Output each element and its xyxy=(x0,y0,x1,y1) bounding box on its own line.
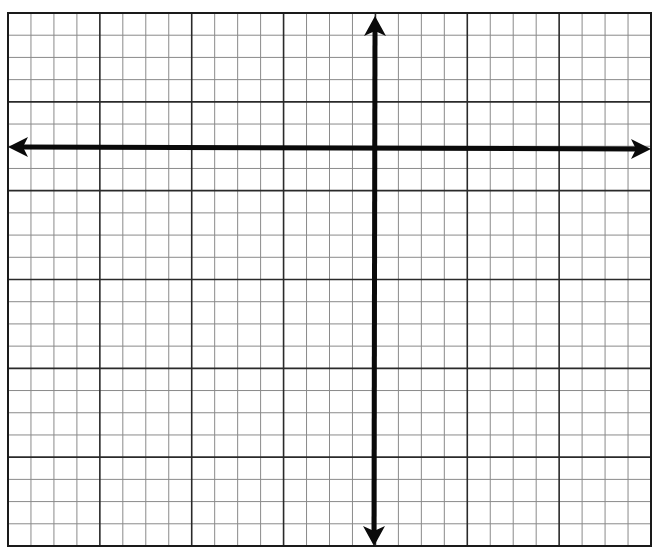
coordinate-plane xyxy=(0,0,659,559)
x-axis xyxy=(22,147,637,149)
y-axis xyxy=(374,30,375,532)
